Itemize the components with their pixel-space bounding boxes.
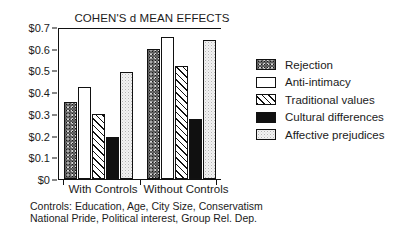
legend-item-rejection: Rejection <box>256 56 385 74</box>
y-tick-mark <box>52 49 57 50</box>
y-tick-mark <box>52 158 57 159</box>
legend-swatch-icon <box>256 59 276 70</box>
legend-item-anti-intimacy: Anti-intimacy <box>256 74 385 92</box>
legend-label: Rejection <box>285 59 333 71</box>
y-tick-label: $0.6 <box>29 44 50 55</box>
y-tick-mark <box>52 114 57 115</box>
y-tick-label: $0.4 <box>29 88 50 99</box>
chart-legend: RejectionAnti-intimacyTraditional values… <box>256 56 385 144</box>
bar-affective-prejudices <box>203 40 216 179</box>
y-tick-label: $0.7 <box>29 23 50 34</box>
legend-swatch-icon <box>256 77 276 88</box>
legend-label: Cultural differences <box>285 111 384 123</box>
y-tick-label: $0.3 <box>29 109 50 120</box>
bar-anti-intimacy <box>78 87 91 179</box>
bar-group-with-controls <box>64 29 134 179</box>
legend-label: Affective prejudices <box>285 129 385 141</box>
caption-line-1: Controls: Education, Age, City Size, Con… <box>30 201 263 213</box>
bar-rejection <box>64 102 77 179</box>
legend-item-affective-prejudices: Affective prejudices <box>256 126 385 144</box>
y-tick-label: $0.2 <box>29 131 50 142</box>
bar-cultural-differences <box>106 137 119 179</box>
y-tick-mark <box>52 71 57 72</box>
bar-group-without-controls <box>147 29 217 179</box>
y-tick-mark <box>52 93 57 94</box>
bar-traditional-values <box>92 114 105 179</box>
plot-area <box>58 28 221 180</box>
y-tick-label: $0.5 <box>29 66 50 77</box>
legend-label: Anti-intimacy <box>285 76 351 88</box>
bar-cultural-differences <box>189 119 202 179</box>
legend-label: Traditional values <box>285 94 375 106</box>
bar-anti-intimacy <box>161 37 174 179</box>
bar-rejection <box>147 49 160 179</box>
y-tick-mark <box>52 136 57 137</box>
y-tick-label: $0.1 <box>29 153 50 164</box>
chart-caption: Controls: Education, Age, City Size, Con… <box>30 201 263 224</box>
bar-traditional-values <box>175 66 188 179</box>
x-axis-label-without-controls: Without Controls <box>136 183 236 196</box>
y-tick-mark <box>52 28 57 29</box>
bar-affective-prejudices <box>120 72 133 179</box>
legend-item-traditional-values: Traditional values <box>256 91 385 109</box>
legend-swatch-icon <box>256 94 276 105</box>
y-tick-mark <box>52 180 57 181</box>
y-tick-label: $0 <box>38 175 50 186</box>
legend-swatch-icon <box>256 129 276 140</box>
caption-line-2: National Pride, Political interest, Grou… <box>30 213 263 225</box>
legend-swatch-icon <box>256 112 276 123</box>
legend-item-cultural-differences: Cultural differences <box>256 109 385 127</box>
chart-title: COHEN'S d MEAN EFFECTS <box>57 12 247 24</box>
chart-figure: COHEN'S d MEAN EFFECTS $0$0.1$0.2$0.3$0.… <box>0 0 414 233</box>
